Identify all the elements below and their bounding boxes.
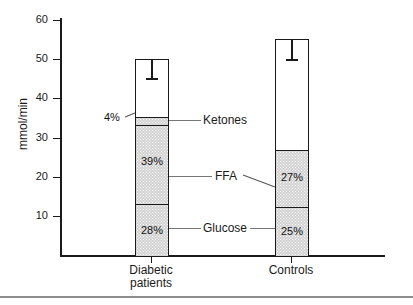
- ffa-callout-leader-right: [243, 170, 277, 192]
- error-bar-controls-stem: [291, 40, 293, 60]
- bar-diabetic-segment-ffa: 39%: [136, 125, 168, 204]
- ffa-callout-leader-left: [169, 176, 212, 177]
- x-category-label-diabetic: Diabetic patients: [111, 264, 191, 290]
- x-category-label-diabetic-line2: patients: [111, 277, 191, 290]
- x-category-label-controls-line1: Controls: [251, 264, 331, 277]
- y-tick-20: [53, 177, 60, 178]
- ketones-callout-leader: [169, 120, 201, 121]
- glucose-callout-leader-right: [250, 228, 275, 229]
- glucose-callout-label: Glucose: [203, 221, 247, 235]
- x-category-label-controls: Controls: [251, 264, 331, 277]
- y-axis-line: [60, 18, 62, 257]
- bar-controls-ffa-label: 27%: [276, 171, 308, 183]
- y-tick-30: [53, 138, 60, 139]
- bar-diabetic-ffa-label: 39%: [136, 155, 168, 167]
- bar-diabetic-segment-ketones: [136, 117, 168, 125]
- ketones-percent-leader: [125, 110, 137, 122]
- y-axis-title: mmol/min: [16, 84, 30, 164]
- error-bar-controls-cap: [286, 59, 298, 61]
- ffa-callout-label: FFA: [215, 169, 237, 183]
- y-tick-60: [53, 20, 60, 21]
- glucose-callout-leader-left: [169, 228, 201, 229]
- ketones-percent-label: 4%: [104, 111, 120, 123]
- bar-controls-segment-glucose: 25%: [276, 207, 308, 256]
- y-tick-label-60: 60: [8, 14, 48, 25]
- y-tick-label-10: 10: [8, 210, 48, 221]
- bar-diabetic-segment-glucose: 28%: [136, 204, 168, 256]
- y-tick-50: [53, 59, 60, 60]
- error-bar-diabetic-stem: [151, 60, 153, 79]
- y-tick-label-20: 20: [8, 171, 48, 182]
- y-tick-40: [53, 98, 60, 99]
- x-axis-line: [60, 255, 385, 257]
- bar-diabetic-glucose-label: 28%: [136, 224, 168, 236]
- y-tick-label-50: 50: [8, 53, 48, 64]
- y-tick-10: [53, 216, 60, 217]
- ketones-callout-label: Ketones: [203, 113, 247, 127]
- error-bar-diabetic-cap: [146, 78, 158, 80]
- chart-figure: 60 50 40 30 20 10 mmol/min Diabetic pati…: [0, 0, 413, 305]
- bottom-divider: [0, 296, 413, 298]
- bar-controls-glucose-label: 25%: [276, 225, 308, 237]
- bar-controls-segment-ffa: 27%: [276, 150, 308, 207]
- bar-controls: 27% 25%: [275, 39, 309, 256]
- bar-diabetic-patients: 39% 28%: [135, 59, 169, 256]
